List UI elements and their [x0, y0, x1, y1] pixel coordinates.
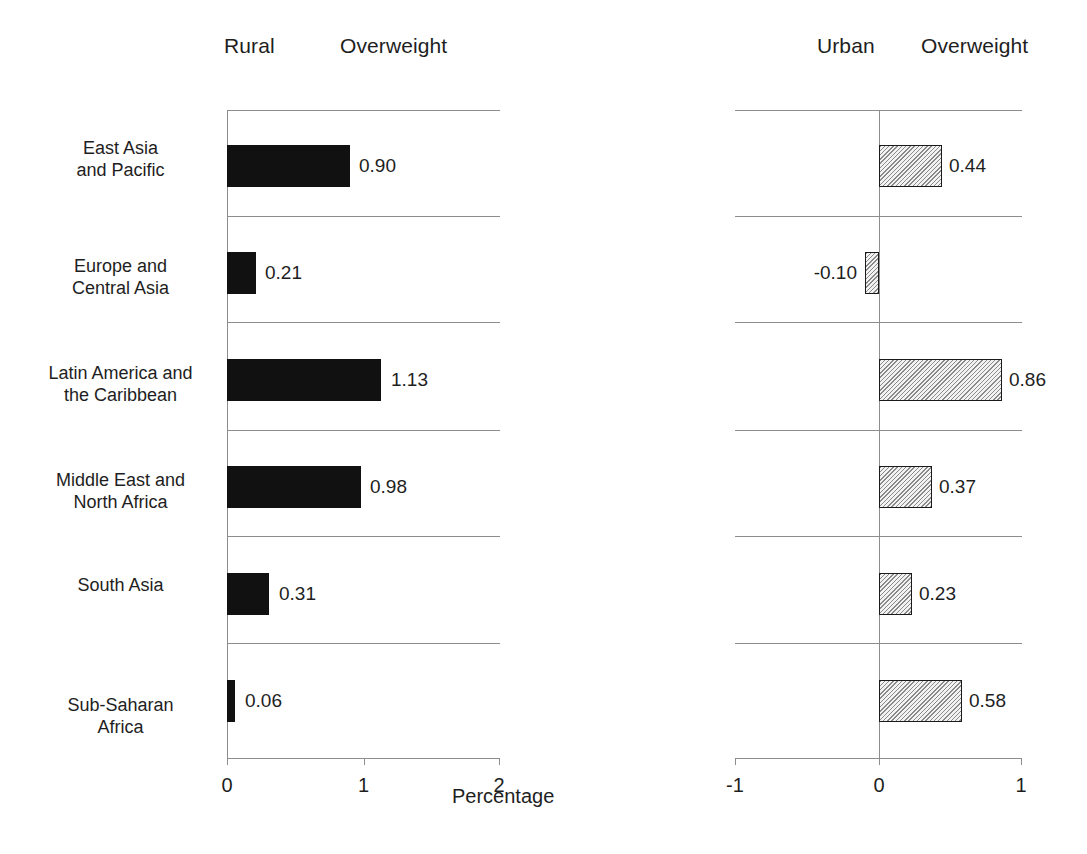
- bar-value-rural-europe-and-central-asia: 0.21: [265, 252, 302, 294]
- x-tick: [735, 758, 736, 765]
- x-tick: [227, 758, 228, 765]
- category-label-line: and Pacific: [28, 159, 213, 181]
- bar-urban-latin-america-and-the-caribbean: [879, 359, 1002, 401]
- x-tick: [364, 758, 365, 765]
- gridline: [735, 430, 1022, 431]
- bar-value-urban-south-asia: 0.23: [919, 573, 956, 615]
- rural-measure-label: Overweight: [340, 34, 447, 58]
- bar-urban-sub-saharan-africa: [879, 680, 962, 722]
- urban-plot-area: 0.44 -0.10 0.86 0.37 0.23 0.58 -1 0 1: [735, 110, 1022, 758]
- category-label-line: Central Asia: [28, 277, 213, 299]
- bar-value-urban-middle-east-and-north-africa: 0.37: [939, 466, 976, 508]
- bar-rural-middle-east-and-north-africa: [227, 466, 361, 508]
- bar-rural-south-asia: [227, 573, 269, 615]
- rural-y-axis-line: [227, 110, 228, 758]
- bar-value-urban-europe-and-central-asia: -0.10: [814, 252, 857, 294]
- gridline: [735, 643, 1022, 644]
- category-label-middle-east-and-north-africa: Middle East and North Africa: [28, 469, 213, 513]
- bar-urban-south-asia: [879, 573, 912, 615]
- bar-rural-latin-america-and-the-caribbean: [227, 359, 381, 401]
- x-tick-label: 0: [873, 774, 884, 797]
- category-label-line: South Asia: [28, 574, 213, 596]
- gridline: [735, 216, 1022, 217]
- category-label-south-asia: South Asia: [28, 574, 213, 596]
- bar-value-rural-latin-america-and-the-caribbean: 1.13: [391, 359, 428, 401]
- category-label-latin-america-and-the-caribbean: Latin America and the Caribbean: [28, 362, 213, 406]
- bar-rural-east-asia-and-pacific: [227, 145, 350, 187]
- category-label-europe-and-central-asia: Europe and Central Asia: [28, 255, 213, 299]
- category-label-line: Latin America and: [28, 362, 213, 384]
- category-label-line: Africa: [28, 716, 213, 738]
- urban-area-label: Urban: [817, 34, 875, 58]
- x-axis-title: Percentage: [452, 785, 554, 808]
- bar-rural-sub-saharan-africa: [227, 680, 235, 722]
- bar-urban-middle-east-and-north-africa: [879, 466, 932, 508]
- gridline: [227, 643, 500, 644]
- category-label-line: the Caribbean: [28, 384, 213, 406]
- x-tick-label: 1: [358, 774, 369, 797]
- gridline: [227, 216, 500, 217]
- gridline: [227, 322, 500, 323]
- x-tick: [1021, 758, 1022, 765]
- category-label-east-asia-and-pacific: East Asia and Pacific: [28, 137, 213, 181]
- rural-panel: Rural Overweight East Asia and Pacific E…: [0, 0, 620, 854]
- bar-rural-europe-and-central-asia: [227, 252, 256, 294]
- bar-urban-east-asia-and-pacific: [879, 145, 942, 187]
- bar-value-urban-east-asia-and-pacific: 0.44: [949, 145, 986, 187]
- x-tick-label: -1: [726, 774, 744, 797]
- gridline: [227, 536, 500, 537]
- bar-value-rural-south-asia: 0.31: [279, 573, 316, 615]
- x-tick-label: 1: [1015, 774, 1026, 797]
- gridline: [735, 322, 1022, 323]
- category-label-line: Europe and: [28, 255, 213, 277]
- gridline: [735, 110, 1022, 111]
- rural-area-label: Rural: [224, 34, 275, 58]
- category-label-line: North Africa: [28, 491, 213, 513]
- gridline: [735, 536, 1022, 537]
- bar-value-rural-sub-saharan-africa: 0.06: [245, 680, 282, 722]
- urban-measure-label: Overweight: [921, 34, 1028, 58]
- category-label-line: Middle East and: [28, 469, 213, 491]
- rural-plot-area: 0.90 0.21 1.13 0.98 0.31 0.06 0 1 2: [227, 110, 500, 758]
- category-label-line: Sub-Saharan: [28, 694, 213, 716]
- bar-value-urban-sub-saharan-africa: 0.58: [969, 680, 1006, 722]
- x-tick: [499, 758, 500, 765]
- bar-urban-europe-and-central-asia: [865, 252, 879, 294]
- category-label-sub-saharan-africa: Sub-Saharan Africa: [28, 694, 213, 738]
- x-tick: [879, 758, 880, 765]
- bar-value-rural-east-asia-and-pacific: 0.90: [359, 145, 396, 187]
- urban-zero-axis-line: [879, 110, 880, 758]
- x-tick-label: 0: [221, 774, 232, 797]
- category-label-line: East Asia: [28, 137, 213, 159]
- gridline: [227, 110, 500, 111]
- urban-panel: Urban Overweight 0.44 -0.10 0.86 0.37 0.…: [620, 0, 1087, 854]
- bar-value-rural-middle-east-and-north-africa: 0.98: [370, 466, 407, 508]
- bar-value-urban-latin-america-and-the-caribbean: 0.86: [1009, 359, 1046, 401]
- gridline: [227, 430, 500, 431]
